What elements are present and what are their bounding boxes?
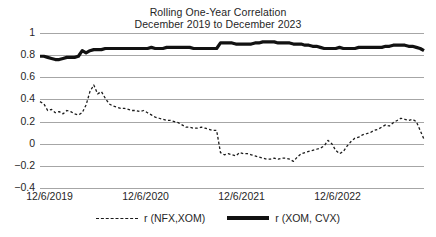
legend-label-xom-cvx: r (XOM, CVX) <box>275 212 340 224</box>
series-line-nfx-xom <box>40 85 424 161</box>
chart-title-line2: December 2019 to December 2023 <box>0 18 436 30</box>
series-lines <box>40 33 424 188</box>
y-axis-tick-label: −0.2 <box>0 159 35 171</box>
solid-line-swatch-icon <box>227 216 269 219</box>
legend-item-xom-cvx[interactable]: r (XOM, CVX) <box>227 212 340 224</box>
y-axis-tick-label: 1 <box>0 26 35 38</box>
y-axis-tick-label: 0.6 <box>0 70 35 82</box>
y-axis-tick-label: 0.4 <box>0 92 35 104</box>
x-axis-tick-label: 12/6/2021 <box>218 190 265 202</box>
y-axis-tick-label: 0.2 <box>0 115 35 127</box>
x-axis-tick-label: 12/6/2022 <box>314 190 361 202</box>
chart-title-line1: Rolling One-Year Correlation <box>0 6 436 18</box>
x-axis-tick-label: 12/6/2019 <box>26 190 73 202</box>
plot-area <box>40 33 424 188</box>
chart-legend: r (NFX,XOM) r (XOM, CVX) <box>0 212 436 224</box>
legend-label-nfx-xom: r (NFX,XOM) <box>144 212 205 224</box>
chart-container: Rolling One-Year Correlation December 20… <box>0 0 436 237</box>
y-axis-tick-label: 0 <box>0 137 35 149</box>
gridline <box>40 188 424 189</box>
y-axis-tick-label: 0.8 <box>0 48 35 60</box>
series-line-xom-cvx <box>40 42 424 60</box>
legend-item-nfx-xom[interactable]: r (NFX,XOM) <box>96 212 205 224</box>
chart-title: Rolling One-Year Correlation December 20… <box>0 6 436 30</box>
dashed-line-swatch-icon <box>96 218 138 219</box>
x-axis-tick-label: 12/6/2020 <box>122 190 169 202</box>
x-axis-labels: 12/6/201912/6/202012/6/202112/6/2022 <box>0 190 436 206</box>
